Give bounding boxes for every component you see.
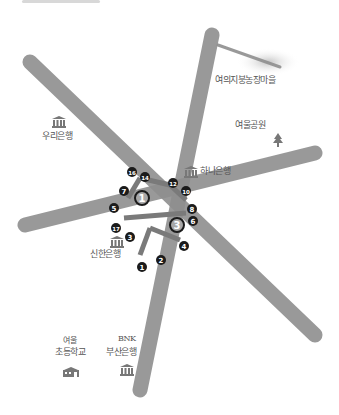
svg-text:8: 8 — [190, 206, 195, 214]
place-park-label: 여울공원 — [235, 118, 265, 131]
map-canvas[interactable]: 13 161412107586173421 — [0, 0, 339, 415]
svg-text:3: 3 — [128, 234, 133, 242]
marker-2[interactable]: 2 — [156, 255, 166, 265]
svg-text:16: 16 — [128, 170, 136, 176]
place-woori-bank-label: 우리은행 — [42, 129, 72, 142]
place-bnk-bank-sublabel: BNK — [118, 334, 135, 343]
school-icon — [62, 362, 80, 381]
marker-12[interactable]: 12 — [168, 178, 178, 188]
marker-7[interactable]: 7 — [119, 186, 129, 196]
marker-8[interactable]: 8 — [187, 204, 197, 214]
bank-icon — [120, 361, 134, 380]
svg-text:14: 14 — [141, 175, 149, 181]
marker-16[interactable]: 16 — [127, 167, 137, 177]
marker-1[interactable]: 1 — [137, 262, 147, 272]
place-shinhan-bank-label: 신한은행 — [90, 247, 120, 260]
svg-text:2: 2 — [159, 257, 164, 265]
svg-text:17: 17 — [112, 226, 120, 232]
svg-text:12: 12 — [169, 181, 177, 187]
tree-icon — [272, 132, 284, 151]
marker-5[interactable]: 5 — [109, 203, 119, 213]
marker-6[interactable]: 6 — [188, 216, 198, 226]
bank-icon — [184, 163, 198, 182]
place-bnk-bank-label: 부산은행 — [106, 345, 136, 358]
ramp — [140, 228, 150, 255]
marker-3[interactable]: 3 — [125, 232, 135, 242]
svg-text:10: 10 — [182, 189, 190, 195]
place-hana-bank-label: 하나은행 — [200, 164, 230, 177]
marker-17[interactable]: 17 — [111, 223, 121, 233]
exit-1[interactable]: 1 — [135, 191, 149, 205]
svg-text:1: 1 — [139, 193, 146, 204]
svg-text:5: 5 — [112, 205, 117, 213]
exit-3[interactable]: 3 — [170, 218, 184, 232]
place-school-label-top: 여울 — [63, 334, 76, 345]
svg-text:7: 7 — [122, 188, 127, 196]
marker-10[interactable]: 10 — [181, 186, 191, 196]
svg-text:4: 4 — [182, 243, 187, 251]
marker-4[interactable]: 4 — [179, 241, 189, 251]
marker-14[interactable]: 14 — [140, 172, 150, 182]
place-top-right-label: 여의지붕농장마을 — [215, 73, 275, 86]
svg-text:6: 6 — [191, 218, 196, 226]
place-school-label: 초등학교 — [55, 345, 85, 358]
svg-text:3: 3 — [174, 220, 181, 231]
svg-text:1: 1 — [140, 264, 145, 272]
